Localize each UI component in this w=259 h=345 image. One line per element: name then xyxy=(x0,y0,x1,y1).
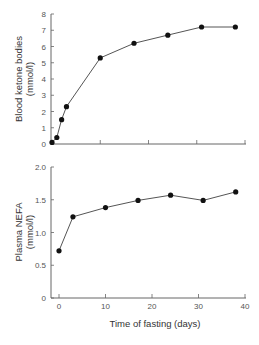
data-point xyxy=(98,55,103,60)
data-point xyxy=(64,104,69,109)
data-point xyxy=(56,248,61,253)
data-point xyxy=(201,198,206,203)
ketone-chart: 012345678Blood ketone bodies(mmol/l) xyxy=(13,10,246,149)
y-tick-label: 1 xyxy=(42,124,47,133)
y-tick-label: 1.0 xyxy=(35,229,47,238)
y-axis-title: Blood ketone bodies(mmol/l) xyxy=(13,36,35,122)
y-tick-label: 0 xyxy=(42,140,47,149)
x-tick-label: 20 xyxy=(148,302,157,311)
series-line xyxy=(59,192,236,251)
y-axis-title: Plasma NEFA(mmol/l) xyxy=(13,202,35,262)
data-point xyxy=(135,198,140,203)
y-tick-label: 2.0 xyxy=(35,163,47,172)
data-point xyxy=(54,135,59,140)
chart-canvas: 012345678Blood ketone bodies(mmol/l)00.5… xyxy=(0,0,259,345)
x-tick-label: 30 xyxy=(194,302,203,311)
series-line xyxy=(52,27,235,142)
x-tick-label: 40 xyxy=(241,302,250,311)
y-tick-label: 6 xyxy=(42,43,47,52)
data-point xyxy=(49,140,54,145)
y-tick-label: 5 xyxy=(42,59,47,68)
data-point xyxy=(59,117,64,122)
data-point xyxy=(103,205,108,210)
y-tick-label: 3 xyxy=(42,91,47,100)
y-tick-label: 1.5 xyxy=(35,196,47,205)
x-axis-title: Time of fasting (days) xyxy=(110,318,201,329)
x-tick-label: 0 xyxy=(57,302,62,311)
y-tick-label: 4 xyxy=(42,75,47,84)
y-tick-label: 7 xyxy=(42,26,47,35)
data-point xyxy=(70,214,75,219)
y-tick-label: 8 xyxy=(42,10,47,19)
data-point xyxy=(199,24,204,29)
data-point xyxy=(168,193,173,198)
y-tick-label: 2 xyxy=(42,108,47,117)
x-tick-label: 10 xyxy=(101,302,110,311)
y-tick-label: 0.5 xyxy=(35,261,47,270)
y-tick-label: 0 xyxy=(42,294,47,303)
data-point xyxy=(233,189,238,194)
data-point xyxy=(131,41,136,46)
data-point xyxy=(233,24,238,29)
data-point xyxy=(165,33,170,38)
nefa-chart: 00.51.01.52.0010203040Plasma NEFA(mmol/l… xyxy=(13,163,250,329)
